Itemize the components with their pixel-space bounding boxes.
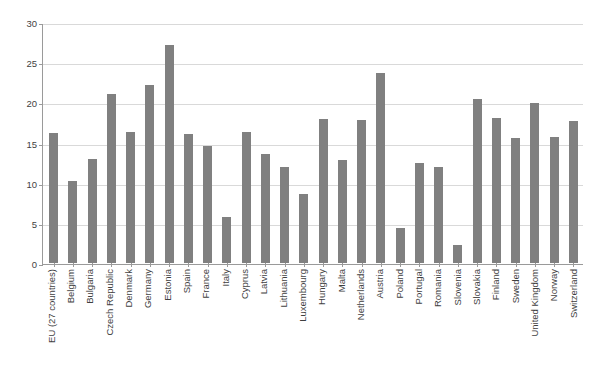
x-axis-tick-mark (92, 263, 93, 267)
x-axis-tick-mark (285, 263, 286, 267)
y-axis-tick-label: 15 (7, 140, 37, 150)
bar (357, 120, 366, 263)
bar (242, 132, 251, 263)
x-axis-tick-mark (496, 263, 497, 267)
x-label-slot: Austria (371, 269, 390, 364)
x-axis-category-label: Netherlands (356, 269, 366, 320)
bar (338, 160, 347, 263)
bar (126, 132, 135, 263)
x-axis-tick-mark (535, 263, 536, 267)
x-label-slot: Czech Republic (100, 269, 119, 364)
x-axis-category-label: Finland (491, 269, 501, 300)
bar (492, 118, 501, 263)
x-label-slot: Netherlands (351, 269, 370, 364)
x-axis-category-label: Slovenia (453, 269, 463, 305)
x-axis-category-label: Luxembourg (298, 269, 308, 322)
x-label-slot: Switzerland (564, 269, 583, 364)
bar-slot (160, 24, 179, 263)
x-axis-category-label: Estonia (163, 269, 173, 301)
bar-slot (217, 24, 236, 263)
x-label-slot: Luxembourg (293, 269, 312, 364)
x-label-slot: Belgium (61, 269, 80, 364)
x-axis-category-label: Denmark (124, 269, 134, 308)
x-axis-category-label: Portugal (414, 269, 424, 304)
x-label-slot: Finland (487, 269, 506, 364)
y-axis-tick-label: 30 (7, 19, 37, 29)
y-axis-tick-label: 5 (7, 220, 37, 230)
x-axis-category-label: Latvia (260, 269, 270, 294)
x-label-slot: Poland (390, 269, 409, 364)
bar-slot (256, 24, 275, 263)
x-axis-category-label: Norway (549, 269, 559, 301)
x-axis-category-label: Romania (433, 269, 443, 307)
x-axis-category-label: Austria (375, 269, 385, 299)
bar-slot (237, 24, 256, 263)
bar-slot (314, 24, 333, 263)
y-axis-tick-mark (39, 104, 43, 105)
x-label-slot: Malta (332, 269, 351, 364)
x-axis-tick-mark (477, 263, 478, 267)
x-axis-category-label: Lithuania (279, 269, 289, 308)
x-label-slot: Estonia (158, 269, 177, 364)
x-axis-tick-mark (227, 263, 228, 267)
x-axis-tick-mark (516, 263, 517, 267)
x-label-slot: Portugal (409, 269, 428, 364)
bar-slot (333, 24, 352, 263)
bar-slot (63, 24, 82, 263)
x-axis-category-label: Switzerland (569, 269, 579, 318)
bar (280, 167, 289, 263)
y-axis-tick-mark (39, 225, 43, 226)
bar-chart: 051015202530 EU (27 countries)BelgiumBul… (0, 0, 592, 366)
bar-slot (352, 24, 371, 263)
bar-slot (545, 24, 564, 263)
x-axis-category-label: Sweden (511, 269, 521, 303)
x-axis-tick-mark (362, 263, 363, 267)
y-axis-tick-mark (39, 24, 43, 25)
y-axis-tick-label: 10 (7, 180, 37, 190)
bar-slot (121, 24, 140, 263)
y-axis-tick-mark (39, 185, 43, 186)
x-axis-tick-mark (150, 263, 151, 267)
x-label-slot: Slovenia (448, 269, 467, 364)
x-axis-category-label: Bulgaria (86, 269, 96, 304)
y-axis-tick-mark (39, 64, 43, 65)
bar (49, 133, 58, 263)
x-axis-category-label: Poland (395, 269, 405, 299)
x-axis-tick-mark (439, 263, 440, 267)
bar (453, 245, 462, 263)
bar (415, 163, 424, 263)
bar-slot (294, 24, 313, 263)
x-label-slot: France (197, 269, 216, 364)
x-axis-category-label: United Kingdom (530, 269, 540, 337)
bar (68, 181, 77, 263)
bar (376, 73, 385, 263)
bar-slot (102, 24, 121, 263)
x-axis-tick-mark (573, 263, 574, 267)
x-axis-category-label: Malta (337, 269, 347, 292)
bar (165, 45, 174, 264)
bar (319, 119, 328, 263)
x-axis-tick-mark (342, 263, 343, 267)
bar (184, 134, 193, 263)
bar (530, 103, 539, 263)
y-axis-tick-label: 0 (7, 260, 37, 270)
bar-slot (448, 24, 467, 263)
bar-slot (506, 24, 525, 263)
x-label-slot: Latvia (255, 269, 274, 364)
x-label-slot: Bulgaria (81, 269, 100, 364)
x-axis-category-label: France (202, 269, 212, 299)
x-axis-tick-mark (169, 263, 170, 267)
x-axis-category-label: Czech Republic (105, 269, 115, 336)
bar (396, 228, 405, 263)
x-label-slot: Denmark (119, 269, 138, 364)
bar-slot (564, 24, 583, 263)
x-label-slot: Cyprus (235, 269, 254, 364)
bar (222, 217, 231, 263)
x-axis-category-label: Spain (182, 269, 192, 293)
x-label-slot: Slovakia (467, 269, 486, 364)
bar (88, 159, 97, 263)
x-axis-category-label: Slovakia (472, 269, 482, 305)
bar (434, 167, 443, 263)
x-axis-category-label: EU (27 countries) (47, 269, 57, 343)
x-label-slot: United Kingdom (525, 269, 544, 364)
